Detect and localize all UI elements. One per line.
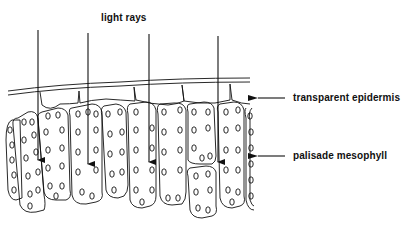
- label-arrows: [258, 98, 285, 156]
- palisade-cells: [6, 102, 254, 218]
- epidermis: [8, 78, 250, 108]
- light-rays-label: light rays: [101, 12, 146, 23]
- palisade-label: palisade mesophyll: [293, 150, 387, 161]
- epidermis-label: transparent epidermis: [293, 92, 400, 103]
- light-rays: [38, 30, 218, 164]
- leaf-diagram: [0, 0, 411, 225]
